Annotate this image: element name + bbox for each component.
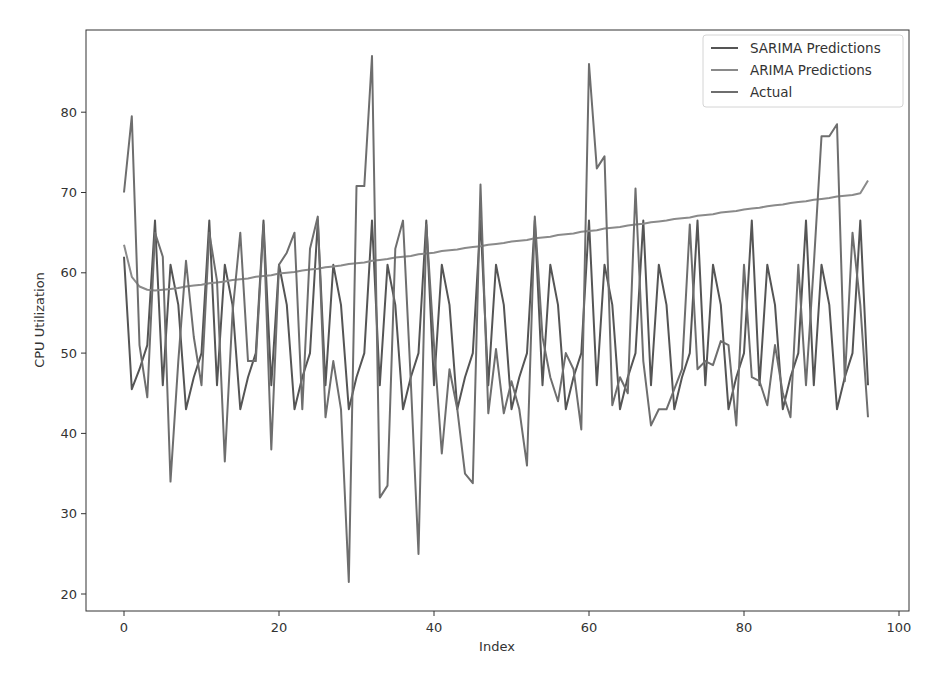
x-tick-label: 60 [581,620,598,635]
x-tick-label: 0 [120,620,128,635]
y-tick-label: 50 [60,346,77,361]
y-axis: 20304050607080 [60,105,86,602]
y-tick-label: 80 [60,105,77,120]
x-tick-label: 80 [736,620,753,635]
x-tick-label: 40 [426,620,443,635]
y-tick-label: 60 [60,265,77,280]
plot-area [86,30,909,611]
y-tick-label: 70 [60,185,77,200]
x-axis: 020406080100 [120,611,912,635]
legend-label-arima: ARIMA Predictions [750,62,872,78]
y-tick-label: 40 [60,426,77,441]
x-tick-label: 20 [271,620,288,635]
y-tick-label: 30 [60,506,77,521]
legend: SARIMA Predictions ARIMA Predictions Act… [703,35,903,107]
legend-label-sarima: SARIMA Predictions [750,40,881,56]
line-chart: 20304050607080 020406080100 Index CPU Ut… [0,0,941,679]
legend-label-actual: Actual [750,84,792,100]
y-tick-label: 20 [60,587,77,602]
x-tick-label: 100 [887,620,912,635]
x-axis-label: Index [479,639,515,654]
y-axis-label: CPU Utilization [32,272,47,368]
